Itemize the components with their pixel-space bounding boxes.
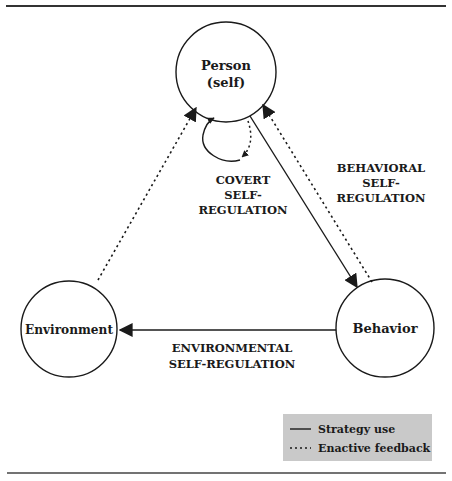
edge-environment-to-person [98, 108, 196, 280]
node-environment: Environment [21, 281, 117, 377]
behavioral-line-2: SELF- [362, 176, 400, 190]
person-sublabel: (self) [207, 75, 245, 90]
environmental-line-2: SELF-REGULATION [169, 357, 296, 371]
environment-label: Environment [25, 322, 113, 337]
behavioral-line-1: BEHAVIORAL [337, 161, 425, 175]
node-person: Person (self) [176, 22, 276, 122]
legend-solid-label: Strategy use [318, 423, 395, 436]
behavioral-line-3: REGULATION [336, 191, 426, 205]
environmental-line-1: ENVIRONMENTAL [172, 341, 293, 355]
covert-line-3: REGULATION [198, 203, 288, 217]
covert-loop-solid [203, 118, 240, 161]
covert-line-2: SELF- [224, 188, 262, 202]
legend: Strategy use Enactive feedback [283, 414, 432, 461]
covert-loop-dashed [242, 121, 251, 157]
node-behavior: Behavior [336, 279, 434, 377]
environmental-self-regulation-label: ENVIRONMENTAL SELF-REGULATION [169, 341, 296, 371]
covert-self-regulation-label: COVERT SELF- REGULATION [198, 173, 288, 217]
behavioral-self-regulation-label: BEHAVIORAL SELF- REGULATION [336, 161, 426, 205]
person-label: Person [201, 58, 252, 73]
behavior-label: Behavior [352, 321, 417, 336]
triadic-self-regulation-diagram: Person (self) Environment Behavior COVER… [0, 0, 452, 481]
legend-dashed-label: Enactive feedback [318, 442, 431, 455]
covert-line-1: COVERT [216, 173, 271, 187]
